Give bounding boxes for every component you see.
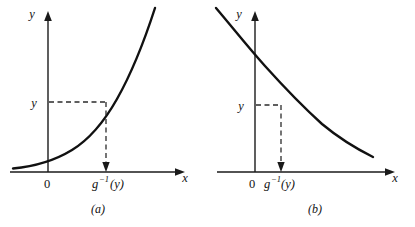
panel-a-inverse-label-exponent: −1 xyxy=(99,174,109,184)
panel-b-y-level-label: y xyxy=(236,99,244,113)
panel-b-inverse-label-arg: (y) xyxy=(281,177,295,191)
panel-a-y-axis-label: y xyxy=(27,7,35,21)
panel-a-inverse-label: g −1 (y) xyxy=(92,174,124,191)
panel-a-y-level-label: y xyxy=(29,96,37,110)
panel-b-curve xyxy=(216,8,373,157)
panel-b-dashed-vertical-arrowhead xyxy=(277,162,284,172)
panel-a-inverse-label-base: g xyxy=(92,177,98,191)
panel-a-y-axis-arrowhead xyxy=(44,11,52,21)
panel-a-origin-label: 0 xyxy=(44,177,50,191)
panel-b-y-axis-arrowhead xyxy=(251,11,259,21)
panel-b-caption: (b) xyxy=(308,202,322,216)
panel-a-inverse-label-arg: (y) xyxy=(110,177,124,191)
panel-b-inverse-label: g −1 (y) xyxy=(264,174,295,191)
panel-b-x-axis-label: x xyxy=(391,171,398,185)
panel-b-origin-label: 0 xyxy=(249,177,255,191)
panel-a: y x y 0 g −1 (y) (a) xyxy=(0,0,207,227)
panel-a-dashed-vertical-arrowhead xyxy=(102,162,109,172)
panel-b-inverse-label-exponent: −1 xyxy=(271,174,281,184)
panel-b: y x y 0 g −1 (y) (b) xyxy=(207,0,415,227)
panel-a-caption: (a) xyxy=(91,202,105,216)
panel-a-curve xyxy=(13,8,155,169)
panel-a-x-axis-label: x xyxy=(181,171,188,185)
figure-container: y x y 0 g −1 (y) (a) y x y 0 g xyxy=(0,0,415,227)
panel-b-inverse-label-base: g xyxy=(264,177,270,191)
panel-b-y-axis-label: y xyxy=(234,7,242,21)
